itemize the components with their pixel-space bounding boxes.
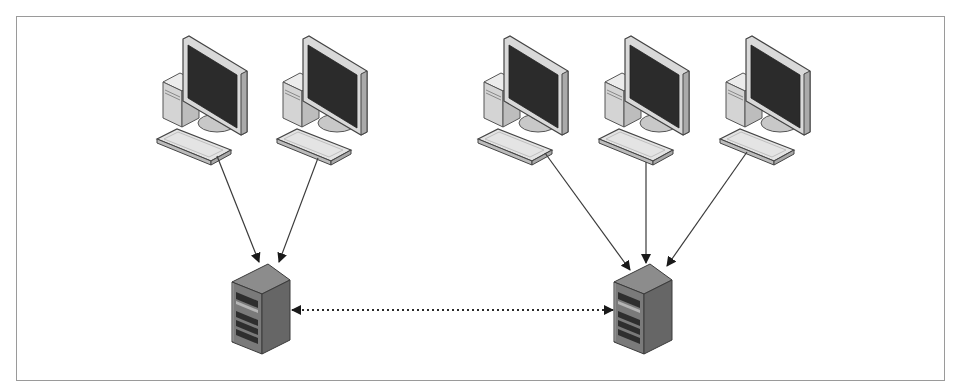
server-2[interactable] (614, 264, 672, 354)
server-1[interactable] (232, 264, 290, 354)
diagram-canvas: Server 1 Server 2 Workstation 1 Workstat… (0, 0, 959, 392)
edge-client-5-server-2 (667, 152, 747, 266)
computer-icon (720, 36, 810, 165)
computer-icon (277, 36, 367, 165)
workstation-4[interactable] (599, 36, 689, 165)
computer-icon (478, 36, 568, 165)
workstation-5[interactable] (720, 36, 810, 165)
workstation-2[interactable] (277, 36, 367, 165)
edge-client-2-server-1 (279, 158, 318, 262)
edge-client-3-server-2 (545, 153, 630, 270)
server-icon (614, 264, 672, 354)
server-icon (232, 264, 290, 354)
computer-icon (599, 36, 689, 165)
workstation-1[interactable] (157, 36, 247, 165)
workstation-3[interactable] (478, 36, 568, 165)
network-diagram-svg (0, 0, 959, 392)
edge-client-1-server-1 (217, 156, 259, 262)
computer-icon (157, 36, 247, 165)
